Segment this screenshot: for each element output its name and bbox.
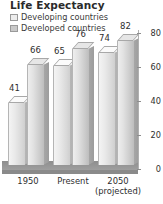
y-axis-tick bbox=[137, 101, 141, 102]
value-label-developed-1950: 66 bbox=[30, 46, 41, 55]
y-axis-label-0: 0 bbox=[156, 165, 161, 173]
chart-legend: Developing countries Developed countries bbox=[10, 13, 108, 34]
chart-title: Life Expectancy bbox=[10, 0, 105, 11]
y-axis-line bbox=[138, 30, 139, 169]
legend-label-developing: Developing countries bbox=[21, 13, 108, 22]
legend-item-developed: Developed countries bbox=[10, 24, 108, 34]
bar-developing-2050 bbox=[98, 53, 114, 165]
x-axis-label-text: 2050 bbox=[107, 176, 128, 186]
bar-front-face bbox=[98, 53, 115, 165]
bar-developed-2050 bbox=[117, 41, 133, 165]
y-axis-label-40: 40 bbox=[151, 97, 161, 105]
x-axis-label-present: Present bbox=[48, 176, 98, 186]
y-axis-tick bbox=[137, 67, 141, 68]
x-axis-labels: 1950 Present 2050 (projected) bbox=[0, 176, 163, 204]
x-axis-label-text: Present bbox=[57, 176, 88, 186]
y-axis-label-60: 60 bbox=[151, 63, 161, 71]
bar-front-face bbox=[117, 41, 134, 165]
y-axis-tick bbox=[137, 169, 141, 170]
bar-front-face bbox=[53, 66, 70, 165]
legend-label-developed: Developed countries bbox=[21, 24, 106, 33]
legend-swatch-icon bbox=[10, 25, 18, 32]
x-axis-label-text: 1950 bbox=[17, 176, 38, 186]
y-axis-tick bbox=[137, 135, 141, 136]
bar-developing-1950 bbox=[8, 103, 24, 165]
bar-front-face bbox=[8, 103, 25, 165]
legend-swatch-icon bbox=[10, 14, 18, 21]
x-axis-label-2050: 2050 (projected) bbox=[92, 176, 144, 196]
legend-item-developing: Developing countries bbox=[10, 13, 108, 23]
floor-front-edge bbox=[2, 170, 138, 174]
y-axis-label-80: 80 bbox=[151, 29, 161, 37]
life-expectancy-chart: Life Expectancy Developing countries Dev… bbox=[0, 0, 163, 204]
bar-front-face bbox=[27, 65, 44, 165]
x-axis-label-1950: 1950 bbox=[6, 176, 50, 186]
value-label-developed-2050: 82 bbox=[120, 22, 131, 31]
bar-developing-present bbox=[53, 66, 69, 165]
bar-developed-1950 bbox=[27, 65, 43, 165]
value-label-developed-present: 76 bbox=[75, 30, 86, 39]
value-label-developing-2050: 74 bbox=[99, 34, 110, 43]
bar-developed-present bbox=[72, 49, 88, 165]
y-axis-tick bbox=[137, 33, 141, 34]
value-label-developing-1950: 41 bbox=[9, 84, 20, 93]
x-axis-label-subtext: (projected) bbox=[92, 186, 144, 196]
bar-front-face bbox=[72, 49, 89, 165]
y-axis-label-20: 20 bbox=[151, 131, 161, 139]
value-label-developing-present: 65 bbox=[54, 47, 65, 56]
